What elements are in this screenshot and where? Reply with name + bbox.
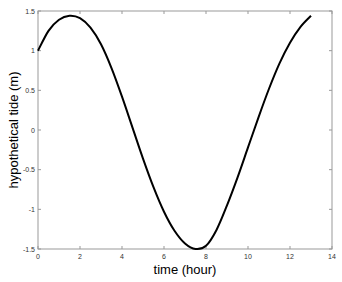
y-tick-label: 0.5 — [25, 87, 35, 94]
y-tick-label: -1.5 — [23, 246, 35, 253]
tide-chart: 02468101214 -1.5-1-0.500.511.5 time (hou… — [0, 0, 342, 282]
x-tick-label: 14 — [328, 253, 336, 260]
x-axis-label: time (hour) — [154, 262, 217, 277]
x-tick-label: 12 — [286, 253, 294, 260]
x-tick-label: 6 — [162, 253, 166, 260]
y-tick-label: 1 — [31, 47, 35, 54]
y-tick-label: -1 — [29, 206, 35, 213]
y-tick-label: 0 — [31, 127, 35, 134]
x-tick-label: 4 — [120, 253, 124, 260]
x-tick-label: 8 — [204, 253, 208, 260]
y-tick-label: -0.5 — [23, 166, 35, 173]
y-tick-label: 1.5 — [25, 8, 35, 15]
x-tick-label: 10 — [244, 253, 252, 260]
x-tick-label: 2 — [78, 253, 82, 260]
x-tick-label: 0 — [36, 253, 40, 260]
y-axis-label: hypothetical tide (m) — [6, 71, 21, 188]
